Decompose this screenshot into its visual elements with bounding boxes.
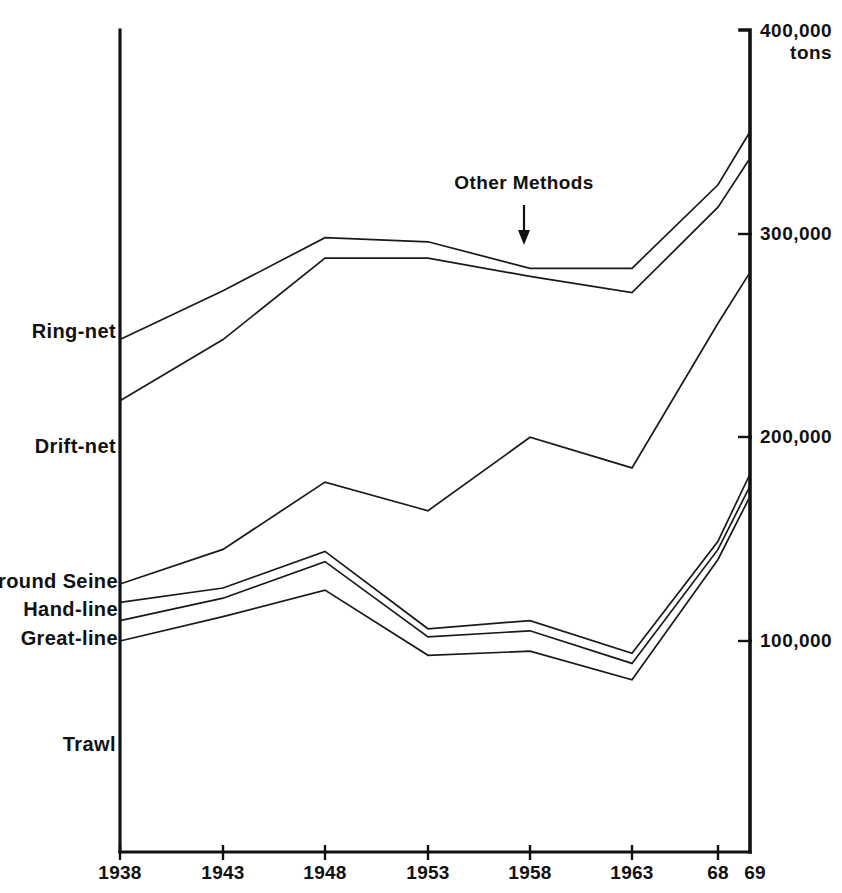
series-line-drift-net	[120, 272, 750, 584]
y-axis-unit: tons	[760, 42, 832, 64]
series-label-great-line: Great-line	[21, 627, 118, 650]
annotation-other-methods: Other Methods	[454, 172, 593, 194]
y-axis-right	[740, 30, 750, 852]
x-tick-label-1958: 1958	[508, 862, 551, 884]
x-tick-label-1969: 69	[744, 862, 766, 884]
series-line-ground-seine	[120, 474, 750, 653]
x-tick-label-1963: 1963	[610, 862, 653, 884]
y-axis-top-label: 400,000 tons	[760, 20, 832, 64]
x-tick-label-1943: 1943	[201, 862, 244, 884]
y-axis-max-value: 400,000	[760, 20, 832, 41]
series-line-other-methods	[120, 132, 750, 340]
x-tick-label-1968: 68	[707, 862, 729, 884]
series-label-ring-net: Ring-net	[32, 320, 116, 343]
chart-plot-area	[0, 0, 842, 893]
x-tick-label-1938: 1938	[98, 862, 141, 884]
series-label-drift-net: Drift-net	[35, 435, 116, 458]
y-tick-label-200000: 200,000	[760, 426, 832, 448]
series-label-ground-seine: Ground Seine	[0, 570, 118, 593]
y-tick-label-300000: 300,000	[760, 223, 832, 245]
series-label-hand-line: Hand-line	[23, 598, 118, 621]
chart-container: 400,000 tons 300,000 200,000 100,000 193…	[0, 0, 842, 893]
y-tick-label-100000: 100,000	[760, 630, 832, 652]
series-line-ring-net	[120, 158, 750, 400]
series-line-great-line	[120, 496, 750, 679]
series-line-hand-line	[120, 486, 750, 663]
series-label-trawl: Trawl	[63, 733, 116, 756]
x-tick-label-1953: 1953	[406, 862, 449, 884]
other-methods-arrow	[518, 205, 530, 245]
x-tick-label-1948: 1948	[303, 862, 346, 884]
series-lines-group	[120, 132, 750, 680]
